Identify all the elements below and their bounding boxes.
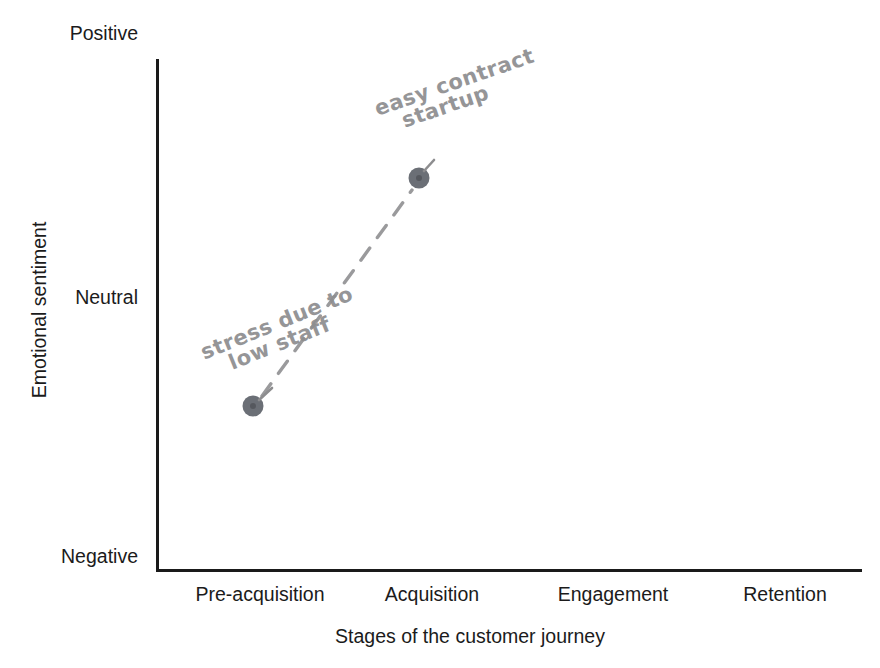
data-point-pre-acquisition[interactable] (243, 388, 273, 417)
chart-canvas: Positive Neutral Negative Pre-acquisitio… (0, 0, 880, 668)
data-point-acquisition[interactable] (409, 160, 435, 189)
